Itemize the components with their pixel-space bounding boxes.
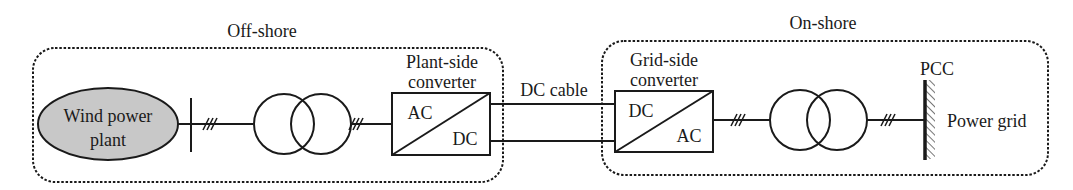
grid-converter-title-line1: Grid-side	[630, 50, 698, 70]
plant-converter-ac-label: AC	[407, 103, 432, 123]
wind-hvdc-diagram: Off-shore On-shore Wind power plant Plan…	[0, 0, 1073, 190]
pcc-hatch	[926, 80, 935, 159]
grid-converter-dc-label: DC	[628, 101, 653, 121]
offshore-label: Off-shore	[227, 21, 297, 41]
transformer-icon-offshore	[254, 94, 351, 154]
grid-converter-title-line2: converter	[630, 70, 698, 90]
pcc-label: PCC	[920, 59, 954, 79]
grid-converter-ac-label: AC	[676, 126, 701, 146]
plant-converter-title-line1: Plant-side	[406, 52, 478, 72]
dc-cable-label: DC cable	[520, 80, 587, 100]
wind-power-plant-label-line2: plant	[90, 130, 126, 150]
wind-power-plant-label-line1: Wind power	[64, 106, 153, 126]
onshore-label: On-shore	[790, 13, 857, 33]
power-grid-label: Power grid	[947, 111, 1027, 131]
transformer-icon-onshore	[770, 90, 867, 150]
plant-converter-title-line2: converter	[408, 72, 476, 92]
plant-converter-dc-label: DC	[452, 129, 477, 149]
